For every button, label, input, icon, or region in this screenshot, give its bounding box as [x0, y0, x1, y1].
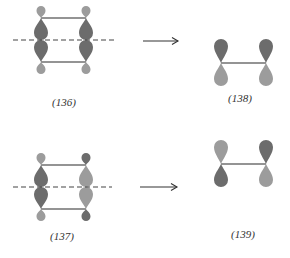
left-bottom-small-lobe	[37, 62, 46, 74]
left-lower-large-lobe	[34, 187, 48, 209]
row-137-139	[13, 140, 273, 221]
right-upper-large-lobe	[79, 18, 93, 40]
right-top-small-lobe	[82, 6, 91, 18]
label-product-139: (139)	[231, 228, 255, 241]
left-bottom-small-lobe	[37, 209, 46, 221]
label-reactant-136: (136)	[52, 96, 76, 109]
left-p-orbital-upper-lobe	[214, 140, 228, 164]
right-p-orbital-lower-lobe	[259, 63, 273, 86]
left-p-orbital-upper-lobe	[214, 39, 228, 63]
right-p-orbital-lower-lobe	[259, 164, 273, 187]
right-top-small-lobe	[82, 153, 91, 165]
left-lower-large-lobe	[34, 40, 48, 62]
left-upper-large-lobe	[34, 165, 48, 187]
orbital-diagram: (136) (138) (137) (139)	[0, 0, 290, 258]
left-p-orbital-lower-lobe	[214, 63, 228, 86]
right-upper-large-lobe	[79, 165, 93, 187]
right-p-orbital-upper-lobe	[259, 39, 273, 63]
left-p-orbital-lower-lobe	[214, 164, 228, 187]
right-bottom-small-lobe	[82, 62, 91, 74]
left-top-small-lobe	[37, 6, 46, 18]
left-top-small-lobe	[37, 153, 46, 165]
label-reactant-137: (137)	[50, 230, 74, 243]
label-product-138: (138)	[228, 92, 252, 105]
right-bottom-small-lobe	[82, 209, 91, 221]
right-p-orbital-upper-lobe	[259, 140, 273, 164]
row-136-138	[13, 6, 273, 86]
right-lower-large-lobe	[79, 187, 93, 209]
right-lower-large-lobe	[79, 40, 93, 62]
left-upper-large-lobe	[34, 18, 48, 40]
